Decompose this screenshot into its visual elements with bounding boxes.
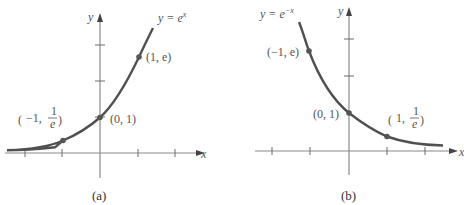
point-label-neg1-1-over-e: ( −1, 1 e ) — [18, 104, 62, 131]
point-neg1-b — [306, 48, 312, 54]
y-axis-label-a: y — [87, 10, 94, 24]
function-label-a: y = ex — [157, 10, 187, 25]
svg-text:1: 1 — [413, 104, 419, 118]
svg-text:1,: 1, — [396, 111, 405, 125]
svg-text:(: ( — [388, 113, 392, 127]
point-neg1-a — [60, 138, 66, 144]
panel-b: x y y = e−x (−1, e) (0, 1) ( 1, 1 e ) (b… — [255, 4, 464, 203]
caption-a: (a) — [92, 188, 106, 203]
x-axis-label-b: x — [458, 145, 464, 159]
svg-text:e: e — [50, 117, 56, 131]
point-1-a — [136, 54, 142, 60]
curve-exp-x — [7, 28, 153, 150]
x-axis-arrow-icon — [449, 148, 458, 154]
function-label-b: y = e−x — [259, 6, 294, 21]
point-label-1-1-over-e: ( 1, 1 e ) — [388, 104, 424, 131]
svg-text:(: ( — [18, 113, 22, 127]
svg-text:): ) — [420, 113, 424, 127]
point-label-0-1-a: (0, 1) — [110, 112, 136, 126]
point-0-a — [97, 115, 103, 121]
svg-text:−1,: −1, — [26, 111, 42, 125]
svg-text:e: e — [412, 117, 418, 131]
svg-text:1: 1 — [51, 104, 57, 118]
y-axis-label-b: y — [337, 4, 344, 18]
panel-a: x y y = ex (1, e) (0, 1) ( −1, 1 e ) ( — [5, 10, 207, 203]
y-axis-arrow-icon — [97, 13, 103, 22]
point-label-neg1-e: (−1, e) — [267, 45, 299, 59]
y-axis-arrow-icon — [346, 7, 352, 16]
point-1-b — [384, 134, 390, 140]
point-0-b — [346, 110, 352, 116]
point-label-0-1-b: (0, 1) — [313, 107, 339, 121]
svg-text:): ) — [58, 113, 62, 127]
point-label-1-e: (1, e) — [146, 50, 171, 64]
x-axis-label-a: x — [200, 147, 207, 161]
exponential-diagram: x y y = ex (1, e) (0, 1) ( −1, 1 e ) ( — [0, 0, 464, 205]
caption-b: (b) — [341, 188, 356, 203]
